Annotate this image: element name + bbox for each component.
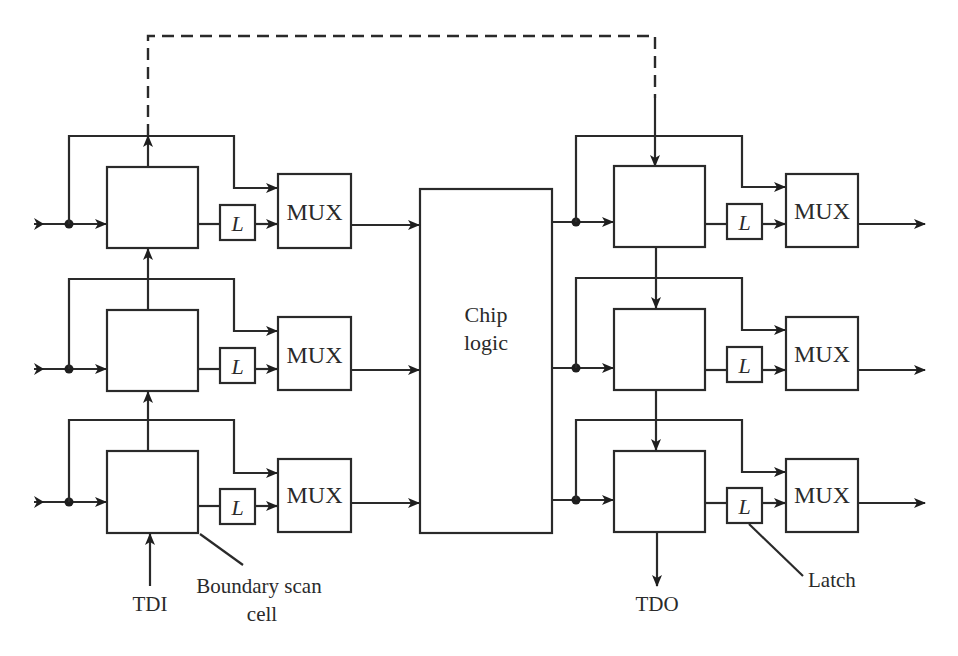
scan-chain-bypass-dashed <box>148 36 655 166</box>
svg-text:L: L <box>737 210 750 235</box>
tdi-label: TDI <box>133 592 168 616</box>
boundary-scan-cell-right-2 <box>614 309 705 390</box>
svg-text:MUX: MUX <box>286 199 342 225</box>
right-row-2: L MUX <box>552 278 925 390</box>
svg-text:MUX: MUX <box>794 482 850 508</box>
svg-text:L: L <box>230 354 243 379</box>
boundary-scan-cell-right-1 <box>614 166 705 247</box>
svg-text:logic: logic <box>464 330 508 355</box>
latch-label: Latch <box>808 568 856 592</box>
svg-text:MUX: MUX <box>286 342 342 368</box>
right-scan-chain <box>656 247 657 586</box>
chip-logic-block: Chip logic <box>420 189 552 533</box>
boundary-scan-cell-label-line2: cell <box>247 602 277 626</box>
right-row-3: L MUX <box>552 420 925 532</box>
svg-text:MUX: MUX <box>286 482 342 508</box>
svg-text:MUX: MUX <box>794 198 850 224</box>
svg-text:L: L <box>737 353 750 378</box>
left-row-1: L MUX <box>34 136 419 248</box>
boundary-scan-diagram: L MUX L MUX L MUX <box>0 0 958 656</box>
svg-text:Chip: Chip <box>465 302 508 327</box>
boundary-scan-cell-left-3 <box>107 451 198 533</box>
right-row-1: L MUX <box>552 136 925 247</box>
svg-text:L: L <box>230 211 243 236</box>
annotations: TDI Boundary scan cell TDO Latch <box>133 524 857 626</box>
boundary-scan-cell-left-2 <box>107 310 198 391</box>
boundary-scan-cell-left-1 <box>107 167 198 248</box>
tdo-label: TDO <box>635 592 678 616</box>
left-row-3: L MUX <box>34 420 419 533</box>
boundary-scan-cell-label: Boundary scan <box>196 574 322 598</box>
svg-text:MUX: MUX <box>794 341 850 367</box>
boundary-scan-cell-right-3 <box>614 451 705 532</box>
svg-text:L: L <box>737 494 750 519</box>
left-row-2: L MUX <box>34 279 419 391</box>
svg-text:L: L <box>230 495 243 520</box>
